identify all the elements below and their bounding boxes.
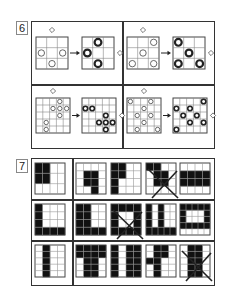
bold-circle <box>201 99 206 104</box>
filled-cell <box>146 258 154 265</box>
bold-circle <box>201 120 206 125</box>
filled-cell <box>188 179 196 187</box>
filled-cell <box>188 171 196 179</box>
filled-cell <box>180 204 186 210</box>
open-circle <box>38 50 44 56</box>
filled-cell <box>111 163 119 171</box>
filled-cell <box>134 251 142 258</box>
quadrant-3-arrow-icon <box>72 113 80 117</box>
filled-cell <box>198 204 204 210</box>
filled-cell <box>134 204 142 212</box>
open-circle <box>155 127 159 131</box>
filled-cell <box>119 171 127 179</box>
open-circle <box>44 127 48 131</box>
filled-cell <box>188 264 196 271</box>
filled-cell <box>126 245 134 252</box>
filled-cell <box>91 271 99 278</box>
open-circle <box>58 106 62 110</box>
bold-circle <box>104 120 109 125</box>
filled-cell <box>154 258 162 265</box>
filled-cell <box>43 271 51 278</box>
filled-cell <box>146 212 152 220</box>
filled-cell <box>154 251 162 258</box>
open-circle <box>64 106 68 110</box>
filled-cell <box>195 171 203 179</box>
bold-circle <box>181 113 186 118</box>
open-circle <box>149 99 153 103</box>
filled-cell <box>91 251 99 258</box>
quadrant-3-after-grid <box>82 98 116 133</box>
bold-circle <box>84 50 91 57</box>
filled-cell <box>91 227 99 235</box>
filled-cell <box>111 179 119 187</box>
filled-cell <box>43 173 51 184</box>
quadrant-1-top-diamond-icon <box>49 27 54 32</box>
filled-cell <box>126 251 134 258</box>
filled-cell <box>84 251 92 258</box>
open-circle <box>59 50 65 56</box>
filled-cell <box>154 264 162 271</box>
filled-cell <box>195 251 203 258</box>
filled-cell <box>188 245 196 252</box>
grid-border <box>82 98 116 133</box>
bold-circle <box>104 127 109 132</box>
bold-circle <box>83 106 88 111</box>
filled-cell <box>91 179 99 187</box>
filled-cell <box>134 245 142 252</box>
grid-border <box>36 98 70 133</box>
bold-circle <box>196 60 203 67</box>
filled-cell <box>84 220 92 228</box>
quadrant-3-right-diamond-icon <box>119 113 124 118</box>
quadrant-4-right-diamond-icon <box>210 113 215 118</box>
filled-cell <box>99 245 107 252</box>
quadrant-3-before-grid <box>36 98 70 133</box>
filled-cell <box>186 204 192 210</box>
filled-cell <box>203 179 211 187</box>
quadrant-2-top-diamond-icon <box>140 27 145 32</box>
open-circle <box>150 60 156 66</box>
filled-cell <box>76 204 84 212</box>
filled-cell <box>99 227 107 235</box>
open-circle <box>51 106 55 110</box>
filled-cell <box>35 227 43 235</box>
open-circle <box>149 113 153 117</box>
filled-cell <box>43 227 51 235</box>
filled-cell <box>91 186 99 194</box>
filled-cell <box>111 220 119 228</box>
filled-cell <box>158 212 164 220</box>
open-circle <box>142 120 146 124</box>
open-circle <box>49 60 55 66</box>
open-circle <box>135 127 139 131</box>
filled-cell <box>204 216 210 222</box>
filled-cell <box>134 264 142 271</box>
filled-cell <box>126 204 134 212</box>
filled-cell <box>170 227 176 235</box>
bold-circle <box>188 120 193 125</box>
filled-cell <box>161 171 169 179</box>
filled-cell <box>180 216 186 222</box>
filled-cell <box>43 264 51 271</box>
filled-cell <box>146 220 152 228</box>
filled-cell <box>111 171 119 179</box>
filled-cell <box>111 264 119 271</box>
filled-cell <box>146 204 152 212</box>
filled-cell <box>161 251 169 258</box>
filled-cell <box>203 171 211 179</box>
filled-cell <box>198 223 204 229</box>
open-circle <box>150 39 156 45</box>
open-circle <box>128 99 132 103</box>
filled-cell <box>192 204 198 210</box>
filled-cell <box>76 212 84 220</box>
filled-cell <box>84 258 92 265</box>
filled-cell <box>84 204 92 212</box>
filled-cell <box>126 271 134 278</box>
filled-cell <box>84 245 92 252</box>
filled-cell <box>180 210 186 216</box>
open-circle <box>44 120 48 124</box>
filled-cell <box>91 245 99 252</box>
filled-cell <box>50 227 58 235</box>
filled-cell <box>192 223 198 229</box>
filled-cell <box>158 227 164 235</box>
bold-circle <box>175 60 182 67</box>
filled-cell <box>119 163 127 171</box>
